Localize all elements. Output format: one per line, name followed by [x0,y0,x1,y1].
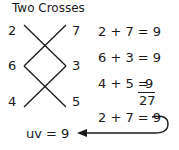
equation-3: 4 + 5 = [98,77,149,90]
result-equation: uv = 9 [26,127,69,140]
number-bottom-right: 5 [72,95,80,108]
number-top-right: 7 [72,24,80,37]
final-equation: 2 + 7 = 9 [98,111,161,124]
number-top-left: 2 [8,24,16,37]
number-mid-left: 6 [8,59,16,72]
number-mid-right: 3 [72,59,80,72]
equation-2: 6 + 3 = 9 [98,51,161,64]
total: 27 [139,94,156,107]
equation-1: 2 + 7 = 9 [98,25,161,38]
sum-last: 9 [145,77,153,90]
arrow-head-icon [77,129,87,137]
number-bottom-left: 4 [8,95,16,108]
